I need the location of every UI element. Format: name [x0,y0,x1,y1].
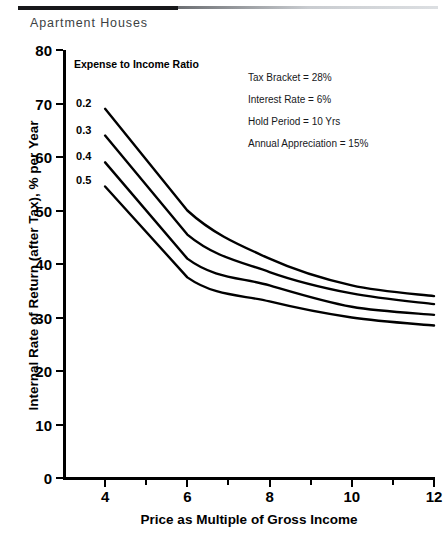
figure-container: Apartment Houses 01020304050607080 46810… [0,0,443,543]
series-line-0.5 [105,186,434,325]
series-line-0.2 [105,109,434,296]
plot-area: 01020304050607080 4681012 Internal Rate … [0,0,443,543]
data-curves [0,0,443,543]
